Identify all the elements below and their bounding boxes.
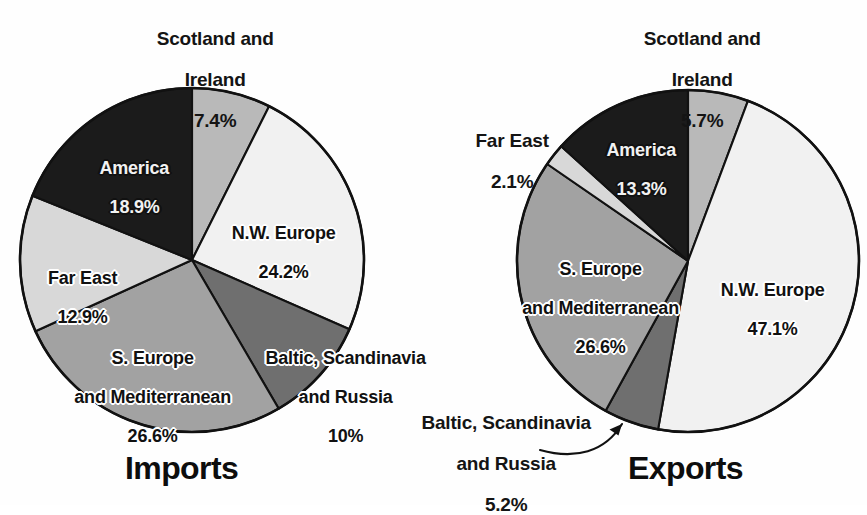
label-text-line2: Ireland: [672, 69, 733, 90]
label-text-line1: Scotland and: [644, 28, 761, 49]
label-text-line2: and Russia: [456, 453, 555, 474]
label-text-line1: S. Europe: [560, 259, 642, 279]
label-text: America: [606, 140, 676, 160]
label-imports-america: America 18.9%: [67, 140, 183, 237]
label-exports-s-europe-mediterranean: S. Europe and Mediterranean 26.6%: [483, 241, 699, 377]
label-text: Far East: [475, 130, 548, 151]
label-imports-nw-europe: N.W. Europe 24.2%: [205, 205, 343, 302]
label-value: 18.9%: [110, 197, 160, 217]
label-value: 24.2%: [259, 262, 309, 282]
label-text-line1: Baltic, Scandinavia: [421, 412, 590, 433]
label-value: 12.9%: [58, 307, 108, 327]
label-text-line2: and Mediterranean: [522, 298, 679, 318]
label-exports-baltic-scandinavia-russia: Baltic, Scandinavia and Russia 5.2%: [396, 392, 596, 515]
label-text-line2: and Mediterranean: [74, 387, 231, 407]
label-text-line2: Ireland: [185, 69, 246, 90]
label-text-line1: Baltic, Scandinavia: [265, 348, 425, 368]
label-text: America: [99, 158, 169, 178]
label-text: Far East: [48, 268, 117, 288]
label-text-line2: and Russia: [299, 387, 393, 407]
label-imports-scotland-and-ireland: Scotland and Ireland 7.4%: [130, 8, 280, 152]
label-value: 7.4%: [194, 110, 237, 131]
label-value: 10%: [328, 426, 363, 446]
chart-title-imports: Imports: [125, 450, 238, 487]
label-value: 13.3%: [617, 179, 667, 199]
label-value: 5.2%: [485, 494, 528, 515]
label-value: 26.6%: [128, 426, 178, 446]
label-text: N.W. Europe: [232, 223, 336, 243]
label-value: 26.6%: [576, 337, 626, 357]
label-value: 47.1%: [748, 319, 798, 339]
label-exports-america: America 13.3%: [574, 122, 690, 219]
label-imports-far-east: Far East 12.9%: [18, 250, 128, 347]
chart-title-exports: Exports: [628, 450, 743, 487]
label-text-line1: Scotland and: [157, 28, 274, 49]
label-imports-s-europe-mediterranean: S. Europe and Mediterranean 26.6%: [35, 330, 251, 466]
label-exports-far-east: Far East 2.1%: [447, 110, 557, 213]
label-exports-nw-europe: N.W. Europe 47.1%: [691, 262, 835, 359]
label-text-line1: S. Europe: [112, 348, 194, 368]
label-value: 2.1%: [491, 171, 534, 192]
label-text: N.W. Europe: [721, 280, 825, 300]
